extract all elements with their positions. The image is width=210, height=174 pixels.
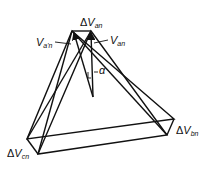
van-phasor xyxy=(91,33,93,97)
label-delta-van: ΔVan xyxy=(80,17,103,29)
label-delta-vbn: ΔVbn xyxy=(176,125,199,137)
delta-vbn-line xyxy=(167,119,174,135)
label-delta-vcn: ΔVcn xyxy=(7,148,29,160)
label-alpha: α xyxy=(99,65,105,76)
label-vapn: Va'n xyxy=(36,37,52,49)
alpha-angle-icon xyxy=(88,72,91,78)
phasor-diagram xyxy=(0,0,210,174)
label-van: Van xyxy=(110,35,125,47)
